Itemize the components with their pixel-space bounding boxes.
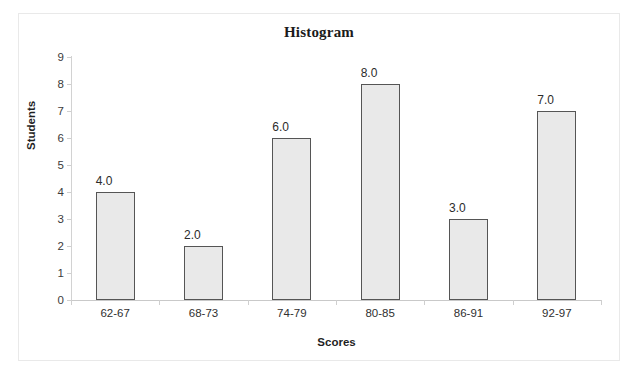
bar-group[interactable]: 8.0	[361, 57, 400, 300]
bar-rect[interactable]	[184, 246, 223, 300]
y-tick-mark	[67, 273, 71, 274]
x-tick-mark	[513, 300, 514, 305]
bar-value-label: 7.0	[537, 93, 554, 107]
y-tick-mark	[67, 57, 71, 58]
bar-rect[interactable]	[96, 192, 135, 300]
x-category-label: 74-79	[277, 307, 306, 319]
bar-value-label: 8.0	[361, 66, 378, 80]
bar-group[interactable]: 6.0	[272, 57, 311, 300]
x-tick-mark	[336, 300, 337, 305]
y-tick-label: 7	[58, 105, 64, 117]
y-tick-label: 8	[58, 78, 64, 90]
bar-wrapper: 4.0	[96, 192, 135, 300]
y-tick-label: 1	[58, 267, 64, 279]
y-tick-label: 3	[58, 213, 64, 225]
x-axis-title: Scores	[71, 336, 602, 348]
y-tick-label: 2	[58, 240, 64, 252]
y-tick-mark	[67, 138, 71, 139]
bar-wrapper: 2.0	[184, 246, 223, 300]
y-tick-mark	[67, 192, 71, 193]
bar-group[interactable]: 7.0	[537, 57, 576, 300]
bar-group[interactable]: 4.0	[96, 57, 135, 300]
bar-value-label: 6.0	[272, 120, 289, 134]
bar-group[interactable]: 3.0	[449, 57, 488, 300]
x-category-label: 62-67	[100, 307, 129, 319]
bar-rect[interactable]	[449, 219, 488, 300]
bar-rect[interactable]	[361, 84, 400, 300]
bar-value-label: 4.0	[96, 174, 113, 188]
x-category-label: 86-91	[454, 307, 483, 319]
y-tick-mark	[67, 111, 71, 112]
x-tick-mark	[601, 300, 602, 305]
y-tick-mark	[67, 219, 71, 220]
x-tick-mark	[424, 300, 425, 305]
bar-wrapper: 6.0	[272, 138, 311, 300]
x-category-label: 80-85	[365, 307, 394, 319]
bar-wrapper: 3.0	[449, 219, 488, 300]
bar-value-label: 3.0	[449, 201, 466, 215]
bar-rect[interactable]	[272, 138, 311, 300]
x-tick-mark	[159, 300, 160, 305]
bar-group[interactable]: 2.0	[184, 57, 223, 300]
bar-rect[interactable]	[537, 111, 576, 300]
chart-title: Histogram	[0, 24, 638, 41]
plot-area: 9876543210 4.02.06.08.03.07.0	[71, 57, 601, 300]
y-tick-label: 5	[58, 159, 64, 171]
y-tick-label: 6	[58, 132, 64, 144]
y-tick-mark	[67, 246, 71, 247]
histogram-chart-figure: Histogram Students 9876543210 4.02.06.08…	[0, 0, 638, 380]
y-axis-title: Students	[25, 101, 37, 150]
y-tick-mark	[67, 165, 71, 166]
x-tick-mark	[71, 300, 72, 305]
x-category-label: 92-97	[542, 307, 571, 319]
x-category-label: 68-73	[189, 307, 218, 319]
y-tick-label: 4	[58, 186, 64, 198]
y-tick-mark	[67, 84, 71, 85]
y-tick-label: 9	[58, 51, 64, 63]
bar-wrapper: 8.0	[361, 84, 400, 300]
bar-value-label: 2.0	[184, 228, 201, 242]
y-tick-label: 0	[58, 294, 64, 306]
x-tick-mark	[248, 300, 249, 305]
bar-wrapper: 7.0	[537, 111, 576, 300]
